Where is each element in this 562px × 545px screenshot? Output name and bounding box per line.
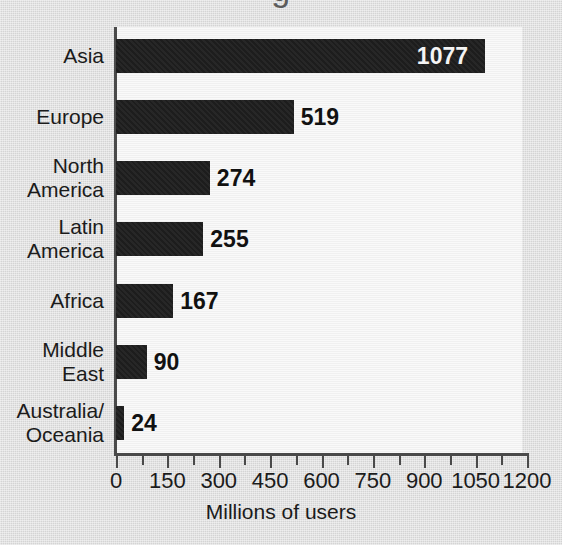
major-tick [527, 456, 529, 468]
bar-series: 10775192742551679024 [116, 27, 527, 455]
bar[interactable] [116, 100, 294, 134]
clipped-title-fragment: g [0, 0, 562, 9]
tick-label: 900 [406, 468, 443, 494]
bar-value-label: 1077 [417, 39, 468, 73]
x-axis-tick-labels: 015030045060075090010501200 [0, 468, 562, 498]
bar-row[interactable]: 1077 [116, 27, 527, 88]
bar-value-label: 255 [210, 222, 248, 256]
chart-page: g AsiaEuropeNorth AmericaLatin AmericaAf… [0, 0, 562, 545]
bar[interactable] [116, 406, 124, 440]
major-tick [476, 456, 478, 468]
bar-value-label: 167 [180, 284, 218, 318]
bar[interactable] [116, 284, 173, 318]
bar[interactable] [116, 222, 203, 256]
tick-label: 750 [355, 468, 392, 494]
tick-label: 0 [110, 468, 122, 494]
minor-tick [399, 456, 401, 465]
bar[interactable] [116, 161, 210, 195]
category-label: Africa [0, 289, 104, 313]
category-axis-labels: AsiaEuropeNorth AmericaLatin AmericaAfri… [0, 27, 110, 455]
major-tick [373, 456, 375, 468]
tick-label: 1050 [451, 468, 500, 494]
bar-row[interactable]: 519 [116, 88, 527, 149]
minor-tick [193, 456, 195, 465]
minor-tick [244, 456, 246, 465]
tick-label: 600 [303, 468, 340, 494]
major-tick [322, 456, 324, 468]
bar-row[interactable]: 255 [116, 210, 527, 271]
minor-tick [501, 456, 503, 465]
bar[interactable] [116, 345, 147, 379]
tick-label: 1200 [503, 468, 552, 494]
major-tick [219, 456, 221, 468]
bar-value-label: 274 [217, 161, 255, 195]
bar-value-label: 519 [301, 100, 339, 134]
category-label: Middle East [0, 338, 104, 386]
minor-tick [347, 456, 349, 465]
category-label: Latin America [0, 215, 104, 263]
tick-label: 300 [200, 468, 237, 494]
bar-row[interactable]: 274 [116, 149, 527, 210]
category-label: Australia/ Oceania [0, 399, 104, 447]
bar-row[interactable]: 167 [116, 272, 527, 333]
major-tick [270, 456, 272, 468]
major-tick [116, 456, 118, 468]
minor-tick [142, 456, 144, 465]
tick-label: 150 [149, 468, 186, 494]
major-tick [167, 456, 169, 468]
tick-label: 450 [252, 468, 289, 494]
category-label: North America [0, 154, 104, 202]
category-label: Europe [0, 105, 104, 129]
bar-value-label: 24 [131, 406, 157, 440]
bar-value-label: 90 [154, 345, 180, 379]
bar-row[interactable]: 24 [116, 394, 527, 455]
category-label: Asia [0, 44, 104, 68]
major-tick [424, 456, 426, 468]
bar-row[interactable]: 90 [116, 333, 527, 394]
minor-tick [450, 456, 452, 465]
x-axis-title: Millions of users [0, 500, 562, 524]
minor-tick [296, 456, 298, 465]
